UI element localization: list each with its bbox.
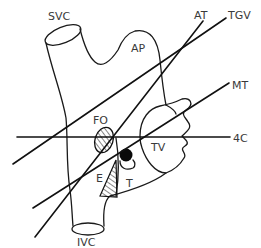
label-at: AT [194,9,208,22]
label-t: T [125,177,133,190]
label-tgv: TGV [227,9,251,22]
label-mt: MT [232,79,248,92]
label-e: E [96,172,103,185]
label-ap: AP [131,42,146,55]
imaging-planes [13,18,230,237]
label-tv: TV [150,141,166,154]
label-fo: FO [93,114,108,127]
coronary-sinus-dot [120,149,133,162]
label-4c: 4C [233,132,248,145]
label-ivc: IVC [77,236,96,248]
plane-at [35,21,203,237]
label-svc: SVC [48,10,71,23]
heart-diagram: SVC AP AT TGV MT 4C FO TV E T IVC [0,0,261,248]
fossa-ovalis [91,125,116,155]
thebesian-valve [120,160,135,169]
